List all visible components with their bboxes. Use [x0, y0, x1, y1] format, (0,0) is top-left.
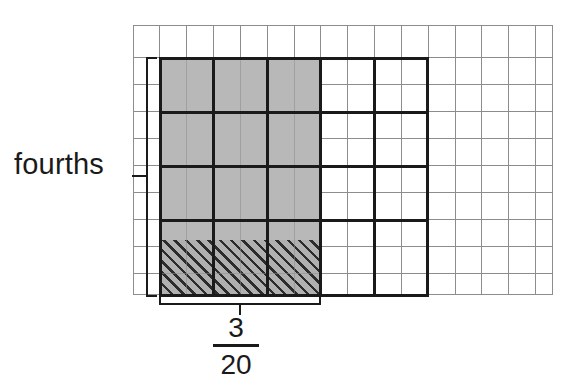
fine-grid-hline: [133, 25, 553, 26]
bold-grid-hline: [159, 165, 429, 168]
row-bracket-bottom-arm: [146, 295, 157, 297]
row-bracket-spine: [146, 57, 148, 297]
bold-grid-hline: [159, 219, 429, 222]
fine-grid-vline: [455, 25, 456, 295]
bold-grid-hline: [159, 57, 429, 60]
fine-grid-vline: [552, 25, 553, 295]
fraction-label-3-20: 3 20: [196, 313, 276, 380]
bold-grid-vline: [319, 57, 322, 297]
bold-grid-vline: [159, 57, 162, 297]
bold-grid-vline: [426, 57, 429, 297]
bold-grid-vline: [373, 57, 376, 297]
bold-grid-hline: [159, 111, 429, 114]
fraction-numerator: 3: [196, 313, 276, 342]
fine-grid-vline: [481, 25, 482, 295]
row-bracket-leader: [132, 175, 147, 177]
column-bracket-left-arm: [159, 292, 161, 304]
fraction-bar: [213, 344, 259, 347]
fine-grid-vline: [508, 25, 509, 295]
bold-grid-hline: [159, 294, 429, 297]
fraction-area-model-figure: fourths 3 20: [0, 0, 567, 391]
row-label-fourths: fourths: [14, 148, 104, 181]
fine-grid-vline: [535, 25, 536, 295]
fine-grid-vline: [133, 25, 134, 295]
bold-grid-vline: [266, 57, 269, 297]
bold-rectangle-grid: [159, 57, 429, 297]
column-bracket-right-arm: [319, 292, 321, 304]
bold-grid-vline: [212, 57, 215, 297]
row-bracket-top-arm: [146, 57, 157, 59]
fraction-denominator: 20: [196, 350, 276, 379]
